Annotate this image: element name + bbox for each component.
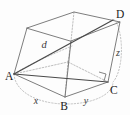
diagonals-group [14,20,113,82]
diagonal-label-d: d [41,39,47,50]
hidden-edges-group [14,12,108,97]
hidden-edge-back-top-vertical [71,12,74,41]
vertex-label-a: A [5,70,14,82]
edge-label-z: z [115,47,120,58]
vertex-label-b: B [60,100,68,112]
vertex-label-c: C [110,84,118,96]
box-diagonal-diagram: A B C D x y z d [0,0,130,115]
edge-front-mid-vertical [65,41,71,97]
hidden-edge-bottom-back-left [14,62,68,74]
edge-label-y: y [83,95,89,106]
edge-label-x: x [33,95,39,106]
geometry-figure-container: A B C D x y z d [0,0,130,115]
vertex-label-d: D [116,8,124,20]
